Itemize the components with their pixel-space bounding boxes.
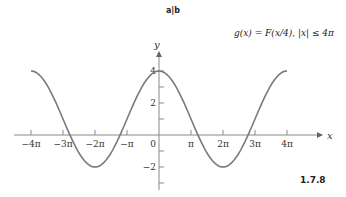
x-tick-label: 4π: [281, 139, 293, 149]
x-ticks: −4π−3π−2π−π0π2π3π4π: [21, 130, 292, 149]
x-tick-label: 0: [150, 139, 156, 149]
plot-area: −4π−3π−2π−π0π2π3π4π −224 x y: [0, 0, 346, 197]
figure-number: 1.7.8: [300, 175, 326, 185]
x-tick-label: 2π: [217, 139, 229, 149]
x-tick-label: −3π: [53, 139, 72, 149]
y-axis-label: y: [153, 39, 160, 50]
x-tick-label: π: [188, 139, 194, 149]
y-tick-label: 2: [150, 98, 156, 108]
x-tick-label: −4π: [21, 139, 40, 149]
x-axis-label: x: [327, 130, 333, 141]
y-ticks: −224: [143, 66, 164, 183]
y-tick-label: −2: [143, 162, 156, 172]
x-tick-label: −2π: [85, 139, 104, 149]
x-tick-label: −π: [120, 139, 134, 149]
x-tick-label: 3π: [249, 139, 261, 149]
